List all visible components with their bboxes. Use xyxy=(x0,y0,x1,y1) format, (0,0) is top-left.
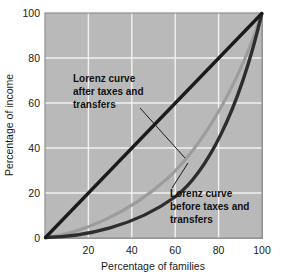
annotation-before-line1: Lorenz curve xyxy=(170,188,233,199)
x-axis-title: Percentage of families xyxy=(101,260,205,272)
x-tick-80: 80 xyxy=(213,244,225,256)
annotation-before-line3: transfers xyxy=(170,214,213,225)
x-tick-40: 40 xyxy=(126,244,138,256)
chart-svg: Lorenz curve after taxes and transfers L… xyxy=(0,0,282,276)
annotation-after-line1: Lorenz curve xyxy=(73,73,136,84)
y-tick-20: 20 xyxy=(28,187,40,199)
y-tick-80: 80 xyxy=(28,52,40,64)
x-tick-100: 100 xyxy=(253,244,271,256)
y-tick-60: 60 xyxy=(28,97,40,109)
y-tick-0: 0 xyxy=(34,232,40,244)
y-tick-40: 40 xyxy=(28,142,40,154)
annotation-after-line2: after taxes and xyxy=(73,86,144,97)
annotation-before-line2: before taxes and xyxy=(170,201,249,212)
x-tick-20: 20 xyxy=(83,244,95,256)
y-axis-title: Percentage of income xyxy=(3,74,15,176)
lorenz-curve-chart: Lorenz curve after taxes and transfers L… xyxy=(0,0,282,276)
y-tick-100: 100 xyxy=(22,7,40,19)
x-tick-60: 60 xyxy=(169,244,181,256)
annotation-after-line3: transfers xyxy=(73,99,116,110)
